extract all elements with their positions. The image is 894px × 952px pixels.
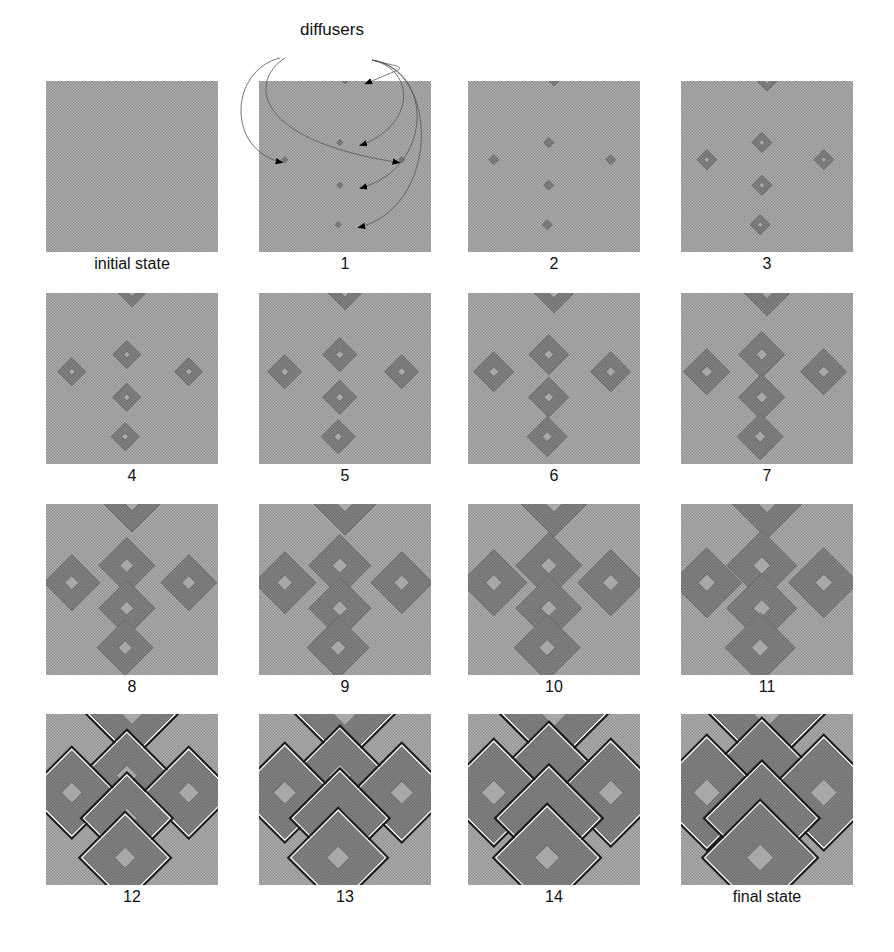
panel-caption: 3 (681, 255, 853, 273)
simulation-panel (46, 504, 218, 675)
panel-caption: 8 (46, 678, 218, 696)
simulation-panel (46, 293, 218, 464)
panel-image (681, 504, 853, 675)
simulation-panel (46, 81, 218, 252)
panel-image (46, 81, 218, 252)
panel-image (681, 714, 853, 885)
panel-image (46, 293, 218, 464)
panel-image (468, 81, 640, 252)
panel-image (259, 293, 431, 464)
simulation-panel (259, 81, 431, 252)
panel-caption: final state (681, 888, 853, 906)
simulation-panel (468, 81, 640, 252)
simulation-panel (46, 714, 218, 885)
panel-image (681, 293, 853, 464)
panel-caption: 6 (468, 467, 640, 485)
simulation-panel (468, 293, 640, 464)
panel-caption: 11 (681, 678, 853, 696)
panel-caption: 7 (681, 467, 853, 485)
panel-image (468, 504, 640, 675)
simulation-panel (259, 293, 431, 464)
simulation-panel (681, 504, 853, 675)
panel-caption: 10 (468, 678, 640, 696)
simulation-panel (681, 81, 853, 252)
panel-image (681, 81, 853, 252)
panel-image (468, 293, 640, 464)
simulation-panel (259, 714, 431, 885)
panel-image (259, 714, 431, 885)
panel-caption: 1 (259, 255, 431, 273)
panel-image (468, 714, 640, 885)
simulation-panel (681, 714, 853, 885)
simulation-panel (681, 293, 853, 464)
panel-caption: 9 (259, 678, 431, 696)
panel-caption: initial state (46, 255, 218, 273)
panel-image (46, 504, 218, 675)
panel-caption: 4 (46, 467, 218, 485)
panel-caption: 5 (259, 467, 431, 485)
panel-caption: 13 (259, 888, 431, 906)
panel-caption: 12 (46, 888, 218, 906)
simulation-panel (259, 504, 431, 675)
diffusers-annotation: diffusers (300, 20, 364, 40)
simulation-panel (468, 714, 640, 885)
panel-caption: 14 (468, 888, 640, 906)
simulation-panel (468, 504, 640, 675)
panel-image (259, 504, 431, 675)
panel-image (46, 714, 218, 885)
panel-image (259, 81, 431, 252)
panel-caption: 2 (468, 255, 640, 273)
